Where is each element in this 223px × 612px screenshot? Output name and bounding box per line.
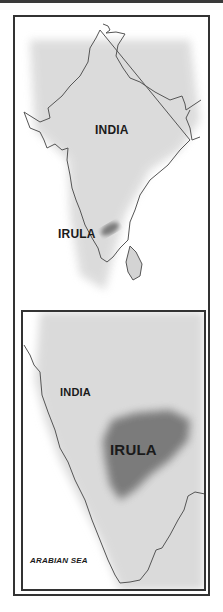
sri-lanka-outline xyxy=(126,246,142,280)
label-india-inset: INDIA xyxy=(60,386,91,398)
label-india-main: INDIA xyxy=(95,123,129,137)
label-irula-inset: IRULA xyxy=(110,441,157,458)
india-main-map xyxy=(24,24,201,290)
label-irula-main: IRULA xyxy=(58,227,96,241)
label-arabian-sea: ARABIAN SEA xyxy=(30,556,88,565)
map-graphic xyxy=(0,0,223,612)
